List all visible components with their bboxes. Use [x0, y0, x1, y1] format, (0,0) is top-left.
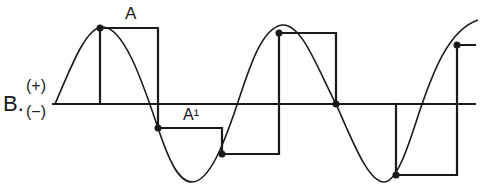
sample-dot: [454, 42, 461, 49]
sample-dot: [97, 25, 104, 32]
label-a: A: [125, 5, 136, 22]
label-negative: (−): [26, 104, 46, 120]
sample-dot: [276, 30, 283, 37]
sample-dot: [219, 151, 226, 158]
sample-hold-steps: [100, 28, 476, 175]
sample-dot: [155, 125, 162, 132]
sample-dot: [393, 172, 400, 179]
waveform-canvas: [0, 0, 481, 191]
label-b: B.: [3, 93, 24, 115]
label-positive: (+): [26, 78, 46, 94]
waveform-diagram: A A¹ B. (+) (−): [0, 0, 481, 191]
sine-wave: [55, 20, 478, 182]
label-a-prime: A¹: [183, 107, 199, 123]
sample-dot: [333, 101, 340, 108]
